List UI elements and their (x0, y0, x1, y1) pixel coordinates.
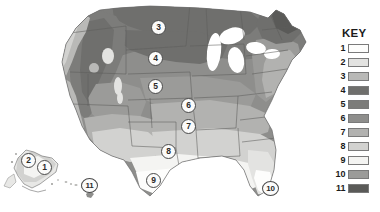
legend-swatch-5 (348, 100, 369, 110)
map-marker-9-label: 9 (151, 176, 155, 185)
us-map-graphic (0, 0, 330, 212)
map-panel: 1 2 3 4 5 6 7 8 9 10 11 (0, 0, 330, 212)
map-marker-11-label: 11 (86, 182, 94, 190)
legend-swatch-10 (348, 170, 369, 180)
hardiness-zone-map-figure: 1 2 3 4 5 6 7 8 9 10 11 KEY 1 2 3 4 5 (0, 0, 380, 212)
map-marker-9[interactable]: 9 (146, 173, 161, 188)
legend-row-6[interactable]: 6 (330, 112, 380, 125)
map-marker-7[interactable]: 7 (181, 119, 196, 134)
legend-number-2: 2 (330, 58, 348, 67)
legend-number-1: 1 (330, 44, 348, 53)
map-marker-4[interactable]: 4 (148, 51, 163, 66)
legend-panel: KEY 1 2 3 4 5 6 7 8 (330, 0, 380, 212)
legend-row-11[interactable]: 11 (330, 182, 380, 195)
map-marker-1[interactable]: 1 (37, 160, 52, 175)
legend-swatch-2 (348, 58, 369, 68)
map-marker-4-label: 4 (153, 54, 157, 63)
legend-number-9: 9 (330, 156, 348, 165)
legend-swatch-1 (348, 44, 369, 54)
legend-row-9[interactable]: 9 (330, 154, 380, 167)
map-marker-8[interactable]: 8 (161, 144, 176, 159)
map-marker-1-label: 1 (42, 163, 46, 172)
legend-swatch-11 (348, 184, 369, 194)
map-marker-3-label: 3 (156, 23, 160, 32)
legend-row-8[interactable]: 8 (330, 140, 380, 153)
legend-row-5[interactable]: 5 (330, 98, 380, 111)
legend-number-8: 8 (330, 142, 348, 151)
legend-number-10: 10 (330, 170, 348, 179)
legend-row-1[interactable]: 1 (330, 42, 380, 55)
legend-number-5: 5 (330, 100, 348, 109)
map-marker-10-label: 10 (266, 185, 274, 193)
alaska-inset (4, 145, 66, 193)
map-marker-2-label: 2 (26, 156, 30, 165)
legend-number-3: 3 (330, 72, 348, 81)
map-marker-7-label: 7 (186, 122, 190, 131)
legend-swatch-6 (348, 114, 369, 124)
legend-number-4: 4 (330, 86, 348, 95)
legend-swatch-4 (348, 86, 369, 96)
legend-swatch-8 (348, 142, 369, 152)
map-marker-6-label: 6 (186, 101, 190, 110)
legend-number-6: 6 (330, 114, 348, 123)
legend-row-3[interactable]: 3 (330, 70, 380, 83)
map-marker-8-label: 8 (166, 147, 170, 156)
legend-row-7[interactable]: 7 (330, 126, 380, 139)
map-marker-10[interactable]: 10 (262, 181, 279, 196)
legend-swatch-9 (348, 156, 369, 166)
legend-swatch-7 (348, 128, 369, 138)
legend-swatch-3 (348, 72, 369, 82)
legend-row-4[interactable]: 4 (330, 84, 380, 97)
legend-row-10[interactable]: 10 (330, 168, 380, 181)
map-marker-11[interactable]: 11 (81, 178, 98, 193)
legend-row-2[interactable]: 2 (330, 56, 380, 69)
legend-number-7: 7 (330, 128, 348, 137)
map-marker-3[interactable]: 3 (151, 20, 166, 35)
legend-number-11: 11 (330, 184, 348, 193)
map-marker-6[interactable]: 6 (181, 98, 196, 113)
map-marker-5-label: 5 (153, 82, 157, 91)
map-marker-2[interactable]: 2 (21, 153, 36, 168)
legend-title: KEY (342, 27, 367, 39)
map-marker-5[interactable]: 5 (148, 79, 163, 94)
